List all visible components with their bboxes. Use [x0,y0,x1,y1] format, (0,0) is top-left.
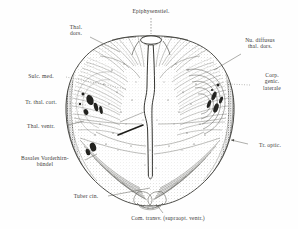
label-sulc-med: Sulc. med. [11,73,71,79]
label-thal-ventr: Thal. ventr. [11,123,71,129]
label-com-transv-supraopt-ventr: Com. transv. (supraopt. ventr.) [108,215,228,221]
label-epiphysenstiel: Epiphysenstiel. [101,8,201,14]
anatomical-plate: Epiphysenstiel. Thal. dors. Nu. diffusus… [0,0,298,229]
brain-section-drawing [0,0,298,229]
label-tr-optic: Tr. optic. [246,142,294,148]
label-tuber-cin: Tuber cin. [56,193,116,199]
label-corp-genic-laterale: Corp. genic. laterale [248,72,296,91]
section-interior [60,30,240,210]
leader-tr-optic-arrowhead [231,139,234,141]
label-tr-thal-cort: Tr. thal. cort. [8,99,74,105]
label-thal-dors: Thal. dors. [46,24,106,37]
label-basales-vorderhirnbuendel: Basales Vorderhirn- bündel [3,155,87,168]
label-nu-diffusus-thal-dors: Nu. diffusus thal. dors. [225,37,295,50]
